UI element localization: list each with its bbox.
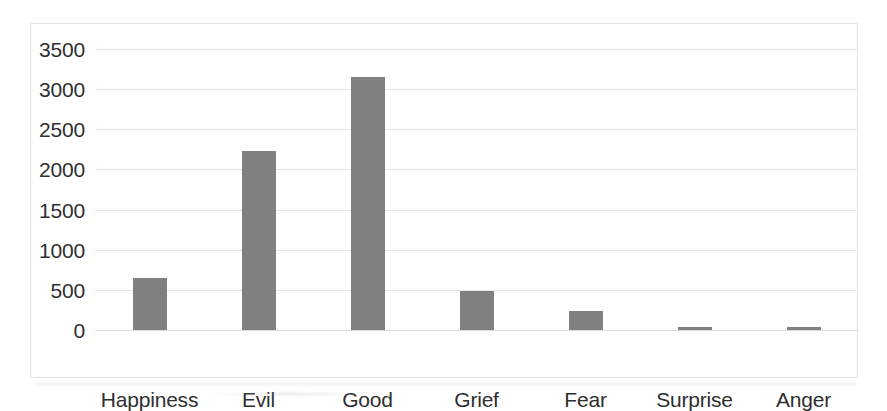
- bar-fear: [569, 311, 603, 330]
- gridline-3500: [95, 49, 858, 50]
- y-tick-label-500: 500: [15, 280, 85, 301]
- bar-evil: [242, 151, 276, 330]
- bar-happiness: [133, 278, 167, 330]
- bar-good: [351, 77, 385, 330]
- plot-area: HappinessEvilGoodGriefFearSurpriseAnger: [95, 49, 858, 330]
- y-tick-label-3000: 3000: [15, 79, 85, 100]
- gridline-3000: [95, 89, 858, 90]
- gridline-2000: [95, 169, 858, 170]
- bar-grief: [460, 291, 494, 330]
- y-tick-label-3500: 3500: [15, 39, 85, 60]
- bar-surprise: [678, 327, 712, 330]
- y-tick-label-2500: 2500: [15, 119, 85, 140]
- x-tick-label-surprise: Surprise: [656, 389, 733, 410]
- x-tick-label-anger: Anger: [776, 389, 831, 410]
- y-tick-label-0: 0: [15, 320, 85, 341]
- scan-smudge-artifact: [205, 392, 375, 396]
- x-tick-label-fear: Fear: [564, 389, 606, 410]
- gridline-0: [95, 330, 858, 331]
- y-tick-label-1500: 1500: [15, 200, 85, 221]
- gridline-2500: [95, 129, 858, 130]
- y-axis-tick-labels: 0500100015002000250030003500: [15, 49, 85, 330]
- y-tick-label-1000: 1000: [15, 240, 85, 261]
- x-tick-label-happiness: Happiness: [101, 389, 198, 410]
- x-tick-label-grief: Grief: [454, 389, 499, 410]
- gridline-1500: [95, 210, 858, 211]
- bar-anger: [787, 327, 821, 330]
- scan-shadow-artifact: [36, 383, 856, 386]
- y-tick-label-2000: 2000: [15, 159, 85, 180]
- gridline-1000: [95, 250, 858, 251]
